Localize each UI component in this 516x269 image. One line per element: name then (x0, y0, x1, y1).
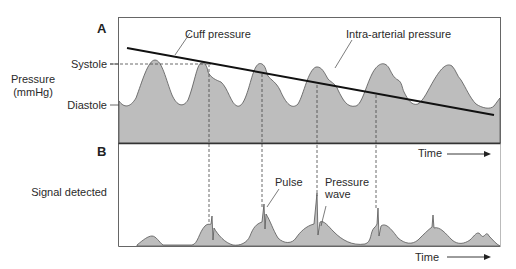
panel-a-letter: A (97, 21, 107, 36)
systole-label: Systole (71, 58, 107, 70)
pulse-leader (267, 189, 279, 207)
panel-b-letter: B (97, 144, 106, 159)
arrowhead-icon (484, 254, 491, 260)
intra-arterial-waveform (119, 60, 500, 143)
diastole-label: Diastole (67, 99, 107, 111)
pressure-wave-label-1: Pressure (325, 176, 369, 188)
oscillation-signal (137, 193, 500, 246)
pressure-axis-label: Pressure (11, 73, 55, 85)
signal-detected-label: Signal detected (31, 186, 107, 198)
cuff-pressure-label: Cuff pressure (185, 28, 251, 40)
panel-a-time-label: Time (418, 147, 442, 159)
panel-a: A Cuff pressure Intra-arterial pressure … (11, 18, 501, 160)
panel-b-time-label: Time (415, 251, 439, 263)
panel-b: B Signal detected Pulse Pressure wave Ti… (31, 143, 500, 263)
arrowhead-icon (484, 151, 491, 157)
pulse-label: Pulse (275, 176, 303, 188)
oscillometry-diagram: A Cuff pressure Intra-arterial pressure … (0, 0, 516, 269)
pressure-unit-label: (mmHg) (13, 86, 53, 98)
pressure-wave-label-2: wave (324, 188, 351, 200)
intra-arterial-label: Intra-arterial pressure (346, 28, 451, 40)
intra-leader (335, 40, 352, 68)
